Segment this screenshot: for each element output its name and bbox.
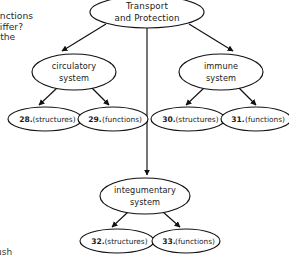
connector-root-to-circulatory — [62, 24, 106, 51]
connector-integumentary-to-leaf-32 — [112, 212, 128, 227]
connector-circulatory-to-leaf-28 — [39, 88, 57, 105]
node-leaf-30-number: 30. — [162, 115, 176, 124]
node-integumentary-label-line2: system — [130, 197, 160, 207]
node-circulatory-label-line1: circulatory — [52, 61, 97, 71]
node-immune-system[interactable]: immune system — [179, 54, 263, 90]
node-answer-blank-33[interactable]: 33. (functions) — [152, 229, 220, 253]
concept-map-diagram: Transport and Protection circulatory sys… — [0, 0, 289, 264]
node-transport-and-protection[interactable]: Transport and Protection — [90, 0, 204, 28]
connector-root-to-immune — [189, 24, 233, 51]
margin-question-line-3: f the — [0, 31, 15, 42]
connector-immune-to-leaf-30 — [186, 88, 204, 105]
margin-question-text: unctionsdiffer?f the — [0, 11, 33, 43]
node-integumentary-label-line1: integumentary — [114, 185, 176, 195]
connector-integumentary-to-leaf-33 — [163, 212, 180, 227]
node-leaf-33-label: (functions) — [175, 237, 215, 246]
node-integumentary-system[interactable]: integumentary system — [100, 178, 190, 214]
node-immune-label-line1: immune — [204, 61, 238, 71]
node-leaf-29-number: 29. — [88, 115, 102, 124]
node-leaf-28-label: (structures) — [32, 115, 75, 124]
margin-question-line-2: differ? — [0, 21, 23, 32]
node-leaf-31-label: (functions) — [245, 115, 285, 124]
node-leaf-33-number: 33. — [162, 237, 176, 246]
node-leaf-28-number: 28. — [19, 115, 33, 124]
node-leaf-29-label: (functions) — [102, 115, 142, 124]
diagram-canvas: Transport and Protection circulatory sys… — [0, 0, 289, 264]
node-answer-blank-29[interactable]: 29. (functions) — [78, 107, 148, 131]
node-root-label-line2: and Protection — [114, 13, 179, 23]
margin-footer-text: ush — [0, 247, 12, 258]
connector-immune-to-leaf-31 — [239, 88, 256, 105]
node-answer-blank-28[interactable]: 28. (structures) — [8, 107, 82, 131]
connector-circulatory-to-leaf-29 — [92, 88, 109, 105]
node-immune-label-line2: system — [206, 73, 236, 83]
node-circulatory-system[interactable]: circulatory system — [32, 54, 116, 90]
margin-question-line-1: unctions — [0, 10, 33, 21]
node-leaf-32-number: 32. — [91, 237, 105, 246]
node-circulatory-label-line2: system — [59, 73, 89, 83]
node-answer-blank-31[interactable]: 31. (functions) — [221, 107, 289, 131]
node-leaf-31-number: 31. — [231, 115, 245, 124]
node-leaf-30-label: (structures) — [175, 115, 218, 124]
node-answer-blank-32[interactable]: 32. (structures) — [80, 229, 154, 253]
node-root-label-line1: Transport — [125, 1, 169, 11]
node-leaf-32-label: (structures) — [104, 237, 147, 246]
node-answer-blank-30[interactable]: 30. (structures) — [151, 107, 225, 131]
